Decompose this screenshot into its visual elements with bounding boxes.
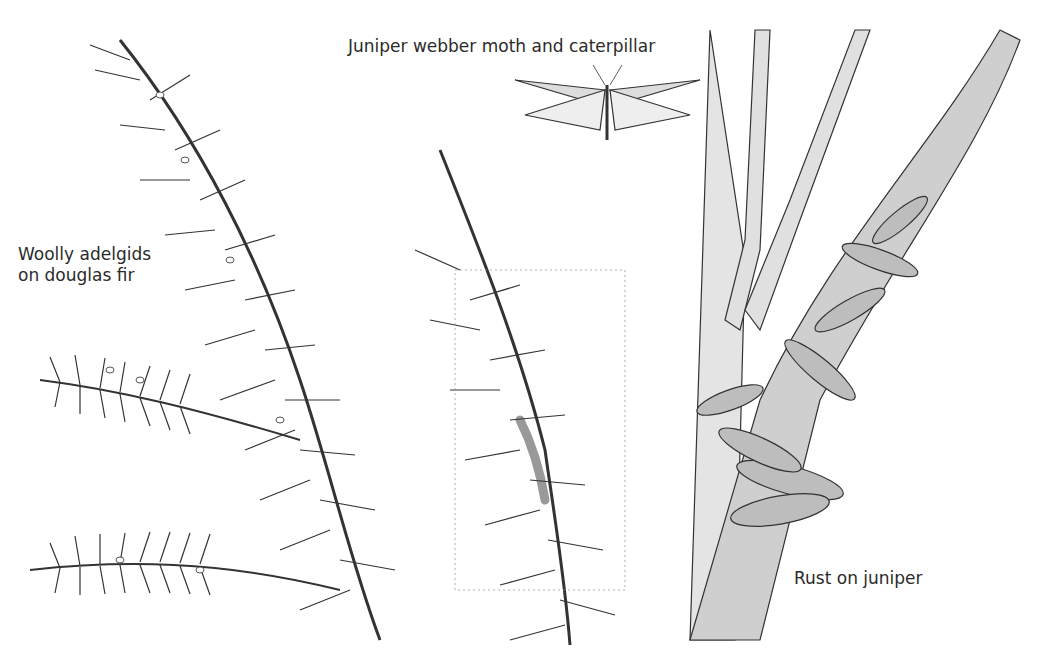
moth [515, 65, 700, 140]
label-rust-on-juniper: Rust on juniper [794, 568, 923, 589]
botanical-illustration [0, 0, 1046, 662]
juniper-webber-branch [415, 65, 700, 645]
rust-on-juniper [690, 30, 1020, 640]
douglas-fir-branch [30, 40, 395, 640]
label-adelgids-line2: on douglas fir [18, 265, 134, 286]
label-adelgids-line1: Woolly adelgids [18, 244, 151, 265]
label-juniper-webber: Juniper webber moth and caterpillar [348, 36, 655, 57]
